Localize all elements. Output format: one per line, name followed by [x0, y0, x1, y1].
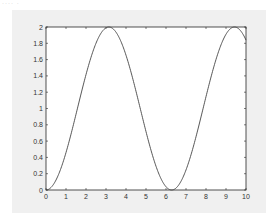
- line-chart: 012345678910 00.20.40.60.811.21.41.61.82: [0, 0, 277, 219]
- y-tick-label: 0.4: [33, 154, 43, 161]
- x-tick-label: 10: [242, 193, 250, 200]
- y-tick-label: 1: [39, 105, 43, 112]
- x-tick-label: 2: [84, 193, 88, 200]
- y-tick-label: 0: [39, 187, 43, 194]
- y-tick-label: 1.4: [33, 72, 43, 79]
- y-tick-label: 1.6: [33, 56, 43, 63]
- x-tick-label: 3: [104, 193, 108, 200]
- x-tick-label: 9: [224, 193, 228, 200]
- y-axis-tick-labels: 00.20.40.60.811.21.41.61.82: [33, 24, 43, 194]
- x-tick-label: 8: [204, 193, 208, 200]
- y-tick-label: 0.2: [33, 170, 43, 177]
- x-tick-label: 4: [124, 193, 128, 200]
- y-tick-label: 0.6: [33, 138, 43, 145]
- x-axis-tick-labels: 012345678910: [44, 193, 250, 200]
- axes-area: [46, 27, 246, 190]
- x-tick-label: 5: [144, 193, 148, 200]
- y-tick-label: 1.2: [33, 89, 43, 96]
- x-tick-label: 7: [184, 193, 188, 200]
- x-tick-label: 0: [44, 193, 48, 200]
- x-tick-label: 1: [64, 193, 68, 200]
- y-tick-label: 1.8: [33, 40, 43, 47]
- y-tick-label: 2: [39, 24, 43, 31]
- y-tick-label: 0.8: [33, 121, 43, 128]
- x-tick-label: 6: [164, 193, 168, 200]
